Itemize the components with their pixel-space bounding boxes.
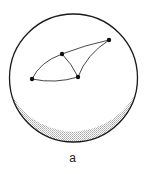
figure-caption: a [0, 151, 145, 165]
sphere-highlight [15, 18, 139, 114]
vertex-v2 [60, 52, 64, 56]
sphere-graph-diagram [0, 0, 145, 174]
vertex-v1 [107, 38, 111, 42]
vertex-v4 [76, 75, 80, 79]
vertex-v3 [30, 77, 34, 81]
